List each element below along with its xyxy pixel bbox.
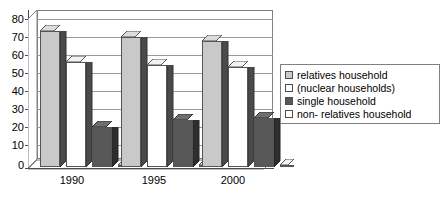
y-tick-label: 50 — [2, 68, 24, 79]
bar-front-face — [40, 31, 60, 167]
bar-1995-single-household — [173, 120, 193, 167]
bar-1995-nuclear-households — [147, 65, 167, 167]
legend-swatch-icon — [285, 110, 293, 118]
legend-swatch-icon — [285, 97, 293, 105]
y-tick-label: 0 — [2, 160, 24, 171]
x-tick-label-1990: 1990 — [47, 174, 97, 186]
legend-swatch-icon — [285, 71, 293, 79]
bar-front-face — [280, 165, 294, 167]
x-tick-label-1995: 1995 — [129, 174, 179, 186]
bar-1990-relatives-household — [40, 31, 60, 167]
y-tick-label: 80 — [2, 14, 24, 25]
legend-label: relatives household — [297, 69, 387, 81]
bar-front-face — [228, 67, 248, 167]
legend-label: (nuclear households) — [297, 82, 395, 94]
legend-item-non-relatives-household: non- relatives household — [285, 107, 435, 120]
legend-label: non- relatives household — [297, 108, 411, 120]
gridline-70 — [37, 37, 273, 38]
y-tick-label: 40 — [2, 86, 24, 97]
bar-front-face — [92, 127, 112, 167]
bar-2000-non-relatives-household — [280, 165, 294, 167]
y-tick-label: 20 — [2, 122, 24, 133]
x-tick-label-2000: 2000 — [208, 174, 258, 186]
bar-front-face — [147, 65, 167, 167]
bar-2000-single-household — [254, 118, 274, 167]
legend-label: single household — [297, 95, 376, 107]
bar-front-face — [254, 118, 274, 167]
x-axis-line — [28, 168, 274, 169]
bar-1990-single-household — [92, 127, 112, 167]
legend-item-nuclear-households: (nuclear households) — [285, 81, 435, 94]
y-tick-label: 30 — [2, 104, 24, 115]
legend-item-single-household: single household — [285, 94, 435, 107]
legend-item-relatives-household: relatives household — [285, 68, 435, 81]
plot-area — [28, 10, 273, 168]
y-tick-label: 70 — [2, 32, 24, 43]
gridline-80 — [37, 19, 273, 20]
bar-1990-nuclear-households — [66, 62, 86, 167]
bar-front-face — [121, 37, 141, 167]
bar-chart-figure: 80 70 60 50 40 30 20 10 0 — [0, 0, 444, 198]
bar-front-face — [202, 41, 222, 167]
chart-legend: relatives household (nuclear households)… — [280, 64, 440, 124]
bar-front-face — [66, 62, 86, 167]
legend-swatch-icon — [285, 84, 293, 92]
y-tick-label: 10 — [2, 140, 24, 151]
bar-2000-relatives-household — [202, 41, 222, 167]
bar-2000-nuclear-households — [228, 67, 248, 167]
bar-front-face — [173, 120, 193, 167]
bar-1995-relatives-household — [121, 37, 141, 167]
y-tick-label: 60 — [2, 50, 24, 61]
